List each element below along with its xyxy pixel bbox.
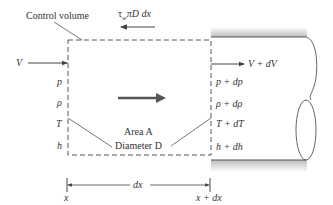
pipe-bottom-wall — [211, 160, 307, 172]
area-leader-left — [68, 118, 112, 147]
inlet-enthalpy: h — [57, 140, 62, 152]
inlet-velocity-label: V — [16, 57, 22, 69]
flow-arrow-head — [156, 93, 166, 103]
x-end-label: x + dx — [196, 192, 222, 204]
outlet-density: ρ + dρ — [216, 98, 242, 110]
outlet-velocity-label: V + dV — [248, 58, 277, 70]
area-label: Area A — [124, 126, 153, 138]
inlet-density: ρ — [57, 97, 62, 109]
pipe-end-ellipse — [296, 100, 316, 160]
pipe-top-wall — [211, 27, 307, 37]
outlet-pressure: p + dp — [216, 76, 243, 88]
outlet-temperature: T + dT — [216, 118, 244, 130]
inlet-temperature: T — [56, 118, 62, 130]
shear-rest: πD dx — [127, 8, 151, 19]
pipe-break-edge — [306, 37, 317, 100]
shear-force-label: τwπD dx — [118, 8, 151, 24]
x-start-label: x — [64, 192, 68, 204]
dx-label: dx — [133, 179, 142, 191]
diagram-canvas — [0, 0, 333, 205]
control-volume-label: Control volume — [26, 10, 89, 22]
control-volume-leader — [54, 22, 82, 40]
area-leader-right — [171, 118, 211, 146]
inlet-pressure: p — [57, 76, 62, 88]
outlet-enthalpy: h + dh — [216, 141, 243, 153]
diameter-label: Diameter D — [115, 140, 162, 152]
